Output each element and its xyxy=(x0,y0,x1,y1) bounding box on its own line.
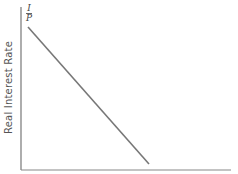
curve-label: I P xyxy=(26,4,32,23)
chart-area xyxy=(0,0,238,174)
investment-demand-curve xyxy=(28,27,149,164)
curve-label-denominator: P xyxy=(26,14,32,23)
y-axis-label: Real Interest Rate xyxy=(3,28,14,148)
